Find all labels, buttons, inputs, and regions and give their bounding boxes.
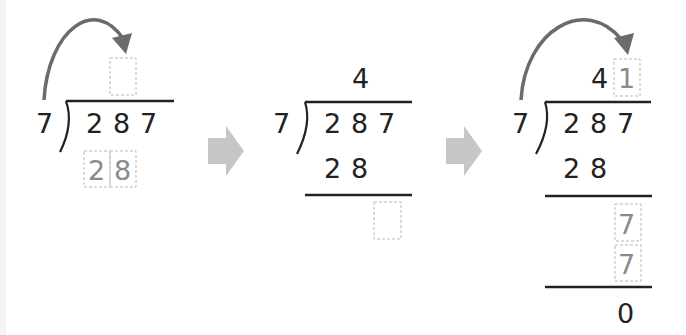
remainder-empty-box — [374, 202, 401, 239]
brought-down-digit: 7 — [618, 209, 635, 240]
quotient-digit: 4 — [352, 63, 369, 94]
panel-step-3: 4 1 7 2 8 7 2 8 7 7 0 — [512, 20, 652, 329]
arrow-right-icon — [446, 126, 482, 176]
product-digit: 8 — [351, 153, 368, 184]
panel-step-2: 4 7 2 8 7 2 8 — [273, 63, 412, 239]
panel-step-1: 7 2 8 7 2 8 — [36, 20, 174, 187]
divisor: 7 — [512, 108, 529, 139]
hint-product-digit: 2 — [88, 155, 105, 186]
product-digit: 8 — [590, 153, 607, 184]
divisor: 7 — [273, 108, 290, 139]
dividend-digit: 7 — [140, 108, 157, 139]
dividend-digit: 7 — [617, 108, 634, 139]
bring-down-curve-arrow — [44, 20, 124, 100]
second-product-digit: 7 — [618, 249, 635, 280]
dividend-digit: 8 — [590, 108, 607, 139]
division-bracket — [297, 102, 307, 154]
dividend-digit: 8 — [113, 108, 130, 139]
curve-arrowhead-icon — [112, 33, 132, 54]
quotient-digit: 4 — [591, 63, 608, 94]
quotient-empty-box — [110, 58, 136, 95]
dividend-digit: 2 — [324, 108, 341, 139]
hint-product-digit: 8 — [114, 155, 131, 186]
long-division-diagram: 7 2 8 7 2 8 4 7 2 8 7 2 8 4 1 7 2 8 7 — [0, 0, 686, 335]
product-digit: 2 — [324, 153, 341, 184]
remainder-digit: 0 — [617, 298, 634, 329]
dividend-digit: 7 — [378, 108, 395, 139]
dividend-digit: 2 — [563, 108, 580, 139]
arrow-right-icon — [208, 126, 244, 176]
division-bracket — [536, 102, 547, 154]
divisor: 7 — [36, 108, 53, 139]
quotient-digit-hint: 1 — [618, 63, 635, 94]
dividend-digit: 2 — [86, 108, 103, 139]
division-bracket — [60, 101, 69, 152]
dividend-digit: 8 — [351, 108, 368, 139]
product-digit: 2 — [563, 153, 580, 184]
